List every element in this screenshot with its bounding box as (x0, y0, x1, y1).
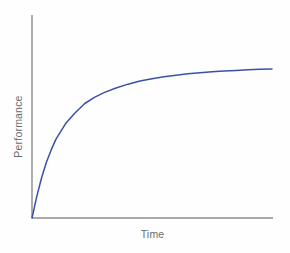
learning-curve-line (32, 69, 272, 218)
plot-area (0, 0, 290, 253)
y-axis-label: Performance (9, 0, 27, 253)
x-axis-label: Time (32, 227, 273, 241)
learning-curve-figure: Performance Time (0, 0, 290, 253)
